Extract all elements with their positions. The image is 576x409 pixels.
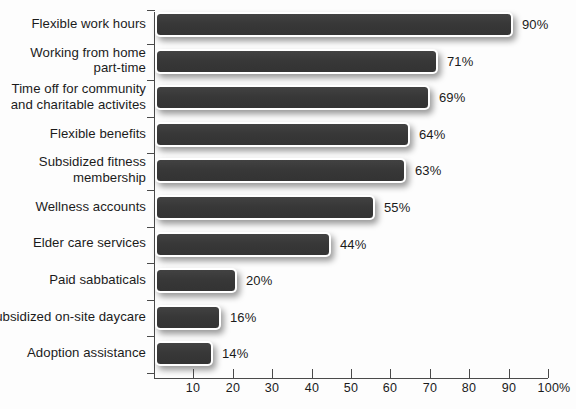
bar (155, 85, 430, 110)
bar-value-label: 55% (384, 200, 410, 215)
category-label: Time off for communityand charitable act… (0, 81, 146, 112)
bar-fill (157, 124, 408, 145)
category-label-line1: Working from home (30, 45, 146, 60)
x-axis-tick-label: 60 (370, 381, 410, 395)
bar-row: Working from homepart-time71% (0, 49, 576, 85)
x-axis-tick (233, 369, 234, 378)
y-axis-tick (147, 117, 155, 118)
bar (155, 122, 410, 147)
y-axis-tick (147, 80, 155, 81)
x-axis-tick-label: 80 (449, 381, 489, 395)
bar-row: Wellness accounts55% (0, 195, 576, 231)
x-axis-tick-label: 50 (331, 381, 371, 395)
x-axis-tick (469, 369, 470, 378)
y-axis-tick (147, 300, 155, 301)
bar (155, 195, 375, 220)
x-axis-tick (548, 369, 549, 378)
bar-fill (157, 343, 211, 364)
y-axis-tick (147, 373, 155, 374)
bar (155, 158, 406, 183)
bar-value-label: 64% (419, 127, 445, 142)
bar-value-label: 14% (222, 346, 248, 361)
category-label: Adoption assistance (0, 345, 146, 361)
bar-fill (157, 87, 428, 108)
bar-row: Paid sabbaticals20% (0, 268, 576, 304)
category-label-line1: Flexible work hours (31, 16, 146, 31)
y-axis-tick (147, 227, 155, 228)
category-label: Paid sabbaticals (0, 272, 146, 288)
category-label-line2: membership (0, 170, 146, 186)
y-axis-tick (147, 44, 155, 45)
x-axis-tick-label: 20 (213, 381, 253, 395)
category-label-line2: and charitable activites (0, 97, 146, 113)
category-label-line1: Time off for community (12, 81, 146, 96)
y-axis-tick (147, 190, 155, 191)
bar-row: Time off for communityand charitable act… (0, 85, 576, 121)
category-label-line1: Elder care services (33, 235, 146, 250)
category-label-line1: Flexible benefits (50, 126, 146, 141)
bar-value-label: 20% (246, 273, 272, 288)
bar (155, 12, 513, 37)
category-label-line1: Wellness accounts (35, 199, 146, 214)
category-label-line1: Paid sabbaticals (49, 272, 146, 287)
x-axis-tick-label: 30 (252, 381, 292, 395)
x-axis-line (154, 378, 548, 379)
x-axis-tick (509, 369, 510, 378)
bar (155, 268, 237, 293)
bar-fill (157, 160, 404, 181)
category-label-line1: Subsidized on-site daycare (0, 309, 146, 324)
bar (155, 341, 213, 366)
bar (155, 305, 221, 330)
x-axis-tick (193, 369, 194, 378)
x-axis-tick (390, 369, 391, 378)
x-axis-tick-label: 10 (173, 381, 213, 395)
bar-row: Flexible benefits64% (0, 122, 576, 158)
y-axis-tick (147, 153, 155, 154)
x-axis-tick (312, 369, 313, 378)
x-axis-tick (430, 369, 431, 378)
bar-value-label: 71% (447, 54, 473, 69)
x-axis-tick-label: 100% (525, 381, 576, 395)
bar-row: Adoption assistance14% (0, 341, 576, 377)
bar-value-label: 44% (340, 237, 366, 252)
bar-row: Subsidized on-site daycare16% (0, 305, 576, 341)
bar-fill (157, 51, 436, 72)
bar-value-label: 63% (415, 163, 441, 178)
x-axis-tick (272, 369, 273, 378)
bar-fill (157, 14, 511, 35)
category-label: Wellness accounts (0, 199, 146, 215)
y-axis-tick (147, 263, 155, 264)
bar-row: Subsidized fitnessmembership63% (0, 158, 576, 194)
bar-fill (157, 234, 329, 255)
bar-value-label: 16% (230, 310, 256, 325)
bar-value-label: 90% (522, 17, 548, 32)
category-label: Elder care services (0, 235, 146, 251)
category-label: Flexible work hours (0, 16, 146, 32)
bar-row: Flexible work hours90% (0, 12, 576, 48)
y-axis-tick (147, 336, 155, 337)
x-axis-tick (351, 369, 352, 378)
bar-chart: Flexible work hours90%Working from homep… (0, 0, 576, 409)
x-axis-tick-label: 70 (410, 381, 450, 395)
category-label-line1: Subsidized fitness (39, 154, 146, 169)
bar-fill (157, 307, 219, 328)
category-label-line1: Adoption assistance (27, 345, 146, 360)
category-label-line2: part-time (0, 60, 146, 76)
y-axis-tick (147, 10, 155, 11)
bar-fill (157, 197, 373, 218)
bar-row: Elder care services44% (0, 232, 576, 268)
x-axis-tick-label: 90 (489, 381, 529, 395)
bar (155, 232, 331, 257)
category-label: Flexible benefits (0, 126, 146, 142)
bar (155, 49, 438, 74)
x-axis-tick-label: 40 (292, 381, 332, 395)
category-label: Working from homepart-time (0, 45, 146, 76)
category-label: Subsidized on-site daycare (0, 309, 146, 325)
category-label: Subsidized fitnessmembership (0, 154, 146, 185)
bar-value-label: 69% (439, 90, 465, 105)
bar-fill (157, 270, 235, 291)
